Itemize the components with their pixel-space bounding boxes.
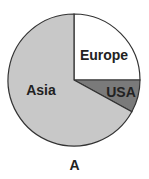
slice-label-usa: USA bbox=[106, 84, 136, 100]
slice-label-europe: Europe bbox=[80, 47, 128, 63]
chart-caption: A bbox=[0, 157, 149, 173]
slice-label-asia: Asia bbox=[26, 82, 56, 98]
pie-slices bbox=[8, 14, 140, 146]
pie-chart: Europe USA Asia bbox=[0, 0, 149, 179]
